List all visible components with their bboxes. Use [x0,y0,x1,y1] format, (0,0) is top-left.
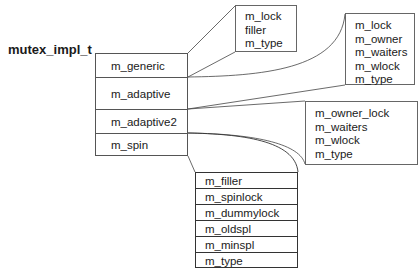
spin-field-m-type: m_type [196,253,297,269]
adaptive-field: m_waiters [355,46,414,60]
generic-field: filler [245,24,296,38]
spin-field-m-filler: m_filler [196,173,297,189]
field-m-adaptive2[interactable]: m_adaptive2 [96,110,187,134]
field-m-adaptive[interactable]: m_adaptive [96,78,187,110]
spin-field-m-oldspl: m_oldspl [196,221,297,237]
adaptive2-field: m_type [315,148,417,162]
field-m-generic[interactable]: m_generic [96,54,187,78]
field-m-spin[interactable]: m_spin [96,134,187,156]
adaptive-field: m_type [355,73,414,87]
adaptive-field: m_wlock [355,60,414,74]
adaptive2-field: m_wlock [315,134,417,148]
spin-box: m_filler m_spinlock m_dummylock m_oldspl… [195,172,298,268]
generic-field: m_lock [245,10,296,24]
generic-field: m_type [245,37,296,51]
spin-field-m-spinlock: m_spinlock [196,189,297,205]
struct-title: mutex_impl_t [8,42,92,57]
adaptive2-field: m_waiters [315,121,417,135]
adaptive-field: m_lock [355,19,414,33]
generic-box: m_lock filler m_type [235,5,297,52]
mutex-impl-struct: m_generic m_adaptive m_adaptive2 m_spin [95,53,188,156]
adaptive-box: m_lock m_owner m_waiters m_wlock m_type [345,13,415,85]
adaptive2-field: m_owner_lock [315,107,417,121]
adaptive-field: m_owner [355,33,414,47]
adaptive2-box: m_owner_lock m_waiters m_wlock m_type [305,101,418,165]
spin-field-m-minspl: m_minspl [196,237,297,253]
spin-field-m-dummylock: m_dummylock [196,205,297,221]
